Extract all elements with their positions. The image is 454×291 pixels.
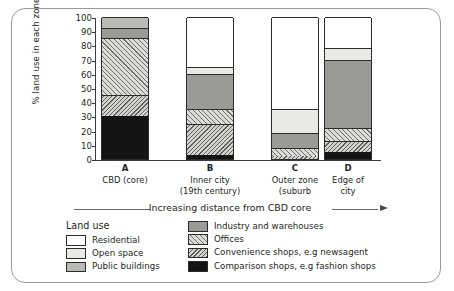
legend-swatch-industry [188,221,208,232]
legend-label: Convenience shops, e.g newsagent [214,247,368,257]
x-tick-label-a: ACBD (core) [83,163,167,186]
bar-segment-open [325,48,371,59]
y-tick-label: 60 [66,71,92,80]
bar-caption-line: CBD (core) [83,175,167,185]
bar-segment-industry [325,60,371,128]
y-tick-mark [92,160,95,161]
bar-segment-convenience [102,95,148,116]
x-tick-label-d: DEdge ofcity [306,163,390,196]
y-tick-label: 70 [66,56,92,65]
y-axis-line [95,18,96,160]
bar-segment-convenience [272,156,318,159]
bar-segment-offices [272,148,318,157]
bar-segment-convenience [187,124,233,155]
y-tick-label: 100 [66,14,92,23]
plot-area: % land use in each zone 0102030405060708… [0,0,454,291]
x-tick-label-group: ACBD (core)BInner city(19th century)COut… [96,163,381,199]
bar-segment-convenience [325,141,371,152]
bar-segment-offices [187,109,233,123]
x-tick-label-b: BInner city(19th century) [168,163,252,196]
legend-label: Comparison shops, e.g fashion shops [214,261,376,271]
bar-b [186,18,234,160]
bar-letter: A [83,163,167,173]
bar-letter: D [306,163,390,173]
bar-caption-line: (19th century) [168,186,252,196]
bar-segment-industry [102,28,148,38]
y-tick-mark [92,89,95,90]
bar-c [271,18,319,160]
bar-segment-open [187,67,233,74]
bar-segment-residential [187,17,233,67]
legend-swatch-convenience [188,248,208,259]
legend-swatch-open [66,248,86,259]
bar-segment-comparison [187,155,233,159]
y-tick-label: 30 [66,113,92,122]
bar-segment-offices [102,38,148,95]
bar-caption-line: Inner city [168,175,252,185]
y-tick-mark [92,46,95,47]
y-axis-title: % land use in each zone [31,0,41,131]
bar-d [324,18,372,160]
legend-label: Industry and warehouses [214,221,323,231]
bar-caption-line: city [306,186,390,196]
bar-segment-public [102,17,148,28]
y-tick-label: 20 [66,127,92,136]
y-tick-label: 50 [66,85,92,94]
legend-swatch-comparison [188,261,208,272]
bar-a [101,18,149,160]
x-axis-caption: Increasing distance from CBD core [60,202,400,213]
x-axis-line [95,160,381,161]
y-tick-mark [92,146,95,147]
legend-swatch-public [66,262,86,273]
y-tick-label: 90 [66,28,92,37]
y-tick-mark [92,75,95,76]
bar-letter: B [168,163,252,173]
y-tick-mark [92,32,95,33]
legend-label: Offices [214,234,244,244]
legend: Land use ResidentialOpen spacePublic bui… [66,220,430,282]
legend-label: Public buildings [92,261,160,271]
y-tick-label: 80 [66,42,92,51]
arrow-line-right [332,209,378,210]
bar-segment-industry [187,74,233,110]
bar-segment-open [272,109,318,133]
legend-swatch-offices [188,234,208,245]
y-tick-mark [92,117,95,118]
legend-label: Residential [92,235,140,245]
bar-segment-residential [272,17,318,109]
axes: 0102030405060708090100 [96,18,381,160]
bar-segment-comparison [102,116,148,159]
chart-root: % land use in each zone 0102030405060708… [0,0,454,291]
bar-segment-comparison [325,152,371,159]
y-tick-mark [92,103,95,104]
y-tick-label: 40 [66,99,92,108]
y-tick-mark [92,18,95,19]
arrow-head-icon [380,205,388,211]
y-tick-label: 10 [66,142,92,151]
bar-segment-residential [325,17,371,48]
legend-label: Open space [92,248,143,258]
legend-title: Land use [66,220,109,231]
bar-caption-line: Edge of [306,175,390,185]
y-tick-mark [92,61,95,62]
bar-segment-offices [325,128,371,141]
distance-arrow: Increasing distance from CBD core [60,202,400,216]
bar-segment-industry [272,133,318,147]
y-tick-mark [92,132,95,133]
legend-swatch-residential [66,235,86,246]
